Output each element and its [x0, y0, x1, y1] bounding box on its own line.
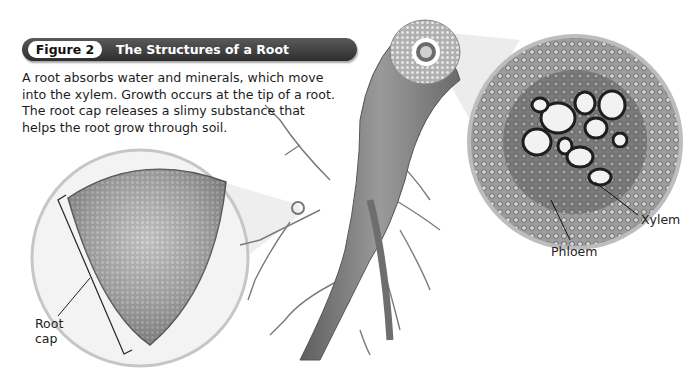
- figure-title: The Structures of a Root: [116, 41, 289, 58]
- root-cap-label-line1: Root: [35, 316, 63, 331]
- phloem-label: Phloem: [551, 244, 597, 259]
- trunk-cross-section: [390, 20, 460, 84]
- figure-caption: A root absorbs water and minerals, which…: [22, 70, 342, 136]
- figure-header: Figure 2 The Structures of a Root: [22, 38, 357, 61]
- root-cap-label-line2: cap: [35, 331, 63, 346]
- figure-number-label: Figure 2: [28, 41, 102, 58]
- root-tip-magnified: [32, 150, 248, 366]
- xylem-label: Xylem: [641, 212, 680, 227]
- root-cap-label: Root cap: [35, 316, 63, 346]
